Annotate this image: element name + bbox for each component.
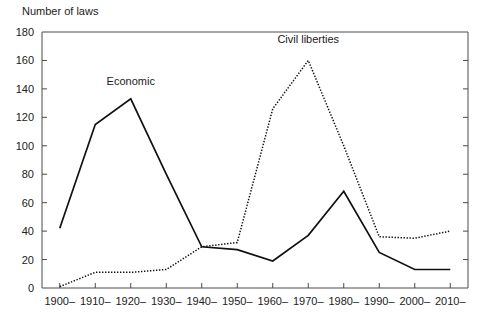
y-tick-label: 140 xyxy=(16,83,34,95)
y-tick-label: 20 xyxy=(22,254,34,266)
x-tick-marks xyxy=(60,283,451,288)
series-line-economic xyxy=(60,99,451,270)
y-tick-label: 100 xyxy=(16,140,34,152)
y-tick-marks xyxy=(42,60,468,259)
y-tick-label: 80 xyxy=(22,168,34,180)
x-tick-label: 1950– xyxy=(222,295,253,307)
x-tick-label: 1930– xyxy=(151,295,182,307)
x-tick-label: 1940– xyxy=(186,295,217,307)
y-tick-label: 0 xyxy=(28,282,34,294)
x-tick-label: 2000– xyxy=(399,295,430,307)
y-tick-labels: 020406080100120140160180 xyxy=(16,26,34,294)
x-tick-labels: 1900–1910–1920–1930–1940–1950–1960–1970–… xyxy=(44,295,466,307)
series-label-economic: Economic xyxy=(107,75,156,87)
y-tick-label: 160 xyxy=(16,54,34,66)
x-tick-label: 1910– xyxy=(80,295,111,307)
x-tick-label: 1900– xyxy=(44,295,75,307)
y-tick-label: 120 xyxy=(16,111,34,123)
axis-group xyxy=(42,32,468,288)
chart-plot: 020406080100120140160180 1900–1910–1920–… xyxy=(0,0,481,312)
chart-container: Number of laws 020406080100120140160180 … xyxy=(0,0,481,312)
series-label-civil-liberties: Civil liberties xyxy=(277,33,339,45)
y-tick-label: 180 xyxy=(16,26,34,38)
x-tick-label: 1990– xyxy=(364,295,395,307)
y-tick-label: 60 xyxy=(22,197,34,209)
x-tick-label: 1970– xyxy=(293,295,324,307)
x-tick-label: 1920– xyxy=(115,295,146,307)
plot-frame xyxy=(42,32,468,288)
x-tick-label: 1960– xyxy=(257,295,288,307)
series-line-civil-liberties xyxy=(60,60,451,286)
x-tick-label: 1980– xyxy=(328,295,359,307)
x-tick-label: 2010– xyxy=(435,295,466,307)
y-tick-label: 40 xyxy=(22,225,34,237)
